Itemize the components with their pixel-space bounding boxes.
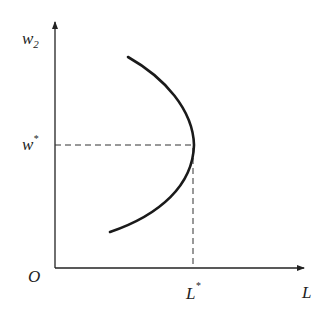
l-star-label: L* xyxy=(185,280,200,303)
origin-label: O xyxy=(28,267,40,286)
w-star-label: w* xyxy=(22,133,38,154)
y-axis-label: w2 xyxy=(22,29,39,50)
diagram-canvas: w2 w* O L* L xyxy=(0,0,332,313)
backward-bending-curve xyxy=(110,57,194,232)
x-axis-label: L xyxy=(301,283,311,302)
